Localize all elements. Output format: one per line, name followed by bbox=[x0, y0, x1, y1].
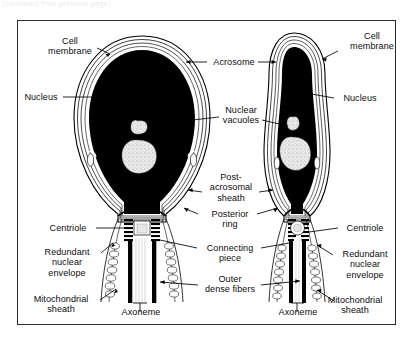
label-centriole-left: Centriole bbox=[40, 223, 96, 233]
label-mitochondrial-sheath-left: Mitochondrial sheath bbox=[22, 294, 100, 315]
label-nuclear-vacuoles: Nuclear vacuoles bbox=[218, 105, 264, 126]
label-axoneme-left: Axoneme bbox=[117, 307, 165, 317]
label-nucleus-left: Nucleus bbox=[18, 92, 64, 102]
label-axoneme-right: Axoneme bbox=[274, 307, 322, 317]
label-outer-dense-fibers: Outer dense fibers bbox=[198, 274, 262, 295]
label-cell-membrane-right: Cell membrane bbox=[339, 31, 405, 52]
label-redundant-nuclear-envelope-left: Redundant nuclear envelope bbox=[36, 247, 98, 278]
sperm-right bbox=[264, 33, 330, 303]
label-post-acrosomal-sheath: Post- acrosomal sheath bbox=[201, 172, 261, 203]
label-mitochondrial-sheath-right: Mitochondrial sheath bbox=[316, 295, 394, 316]
label-redundant-nuclear-envelope-right: Redundant nuclear envelope bbox=[334, 249, 396, 280]
label-cell-membrane-left: Cell membrane bbox=[36, 36, 104, 57]
label-connecting-piece: Connecting piece bbox=[199, 243, 261, 264]
label-acrosome: Acrosome bbox=[210, 57, 258, 67]
label-posterior-ring: Posterior ring bbox=[200, 209, 260, 230]
figure-stage: (continued from previous page) bbox=[0, 0, 415, 341]
label-centriole-right: Centriole bbox=[339, 223, 391, 233]
label-nucleus-right: Nucleus bbox=[336, 93, 384, 103]
